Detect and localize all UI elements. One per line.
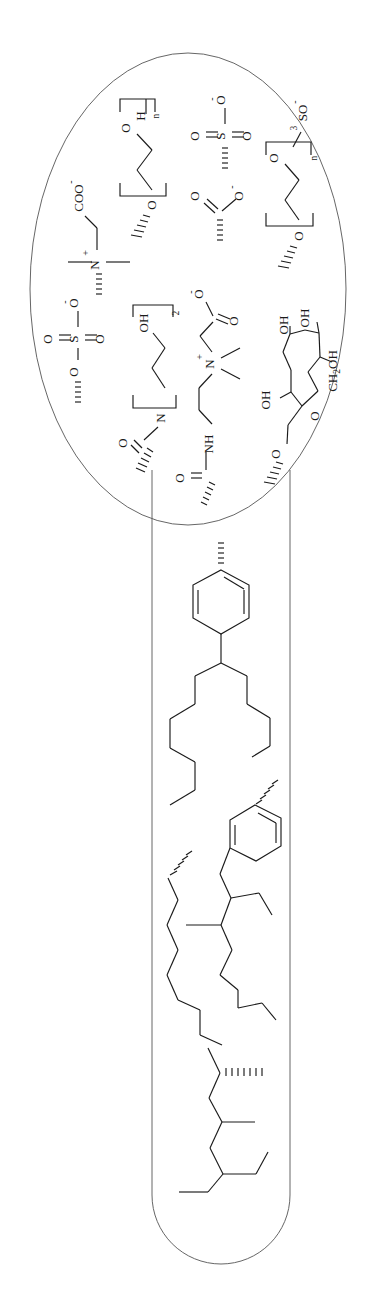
atom-label-OH-glucoside-3: OH — [258, 391, 273, 410]
atom-label-OH-amide: OH — [136, 314, 151, 333]
head-group-ether-sulfate: - SO 3 n O O — [266, 100, 319, 268]
hash-bond-sulfate-ester — [75, 382, 81, 402]
hydrophilic-head-ellipse — [30, 53, 346, 525]
atom-label-O-sulfate-right: O — [92, 334, 107, 343]
hash-bond-betaine — [96, 274, 102, 294]
atom-label-O-peg-bottom: O — [144, 200, 159, 209]
head-group-carboxybetaine: - COO + N — [65, 180, 130, 294]
hash-bond-sulfonate — [222, 148, 228, 168]
subscript-n-peg: n — [151, 113, 161, 118]
subscript-3-ether-sulfate: 3 — [289, 125, 299, 130]
atom-label-OH-glucoside-2: OH — [276, 316, 291, 335]
atom-label-N-betaine: N — [87, 260, 102, 270]
hash-bond-amidopropyl — [201, 482, 215, 505]
subscript-n-ether-sulfate: n — [309, 155, 319, 160]
atom-label-O-sulfonate-top: O — [213, 95, 228, 104]
hash-bond-amide — [136, 448, 153, 472]
charge-plus-amidopropyl: + — [194, 354, 205, 360]
atom-label-N-amidopropyl: N — [202, 359, 217, 369]
charge-minus-ether-sulfate: - — [289, 100, 300, 103]
atom-label-CH2OH-glucoside: CH2OH — [325, 350, 342, 392]
atom-label-SO-ether-sulfate: SO — [295, 105, 310, 122]
atom-label-O-sulfate-left: O — [40, 334, 55, 343]
hash-bond-tail2-chain — [170, 851, 192, 875]
charge-minus-carboxybetaine: - — [65, 180, 76, 183]
charge-minus-carboxylate: - — [226, 185, 237, 188]
atom-label-NH-amidopropyl: NH — [201, 435, 216, 454]
atom-label-O-sulfonate-left: O — [187, 131, 202, 140]
charge-plus-betaine: + — [80, 250, 91, 256]
head-group-amidopropyl-betaine: - O O + N NH O — [172, 289, 241, 505]
head-group-alkyl-polyglucoside: OH OH OH CH2OH O O — [258, 309, 342, 484]
hash-bond-tail1 — [218, 543, 224, 563]
atom-label-OH-glucoside-1: OH — [297, 309, 312, 328]
atom-label-O-carboxylate-left: O — [187, 191, 202, 200]
atom-label-O-amidopropyl-anion: O — [191, 289, 206, 298]
atom-label-O-ether-sulfate-bottom: O — [291, 231, 306, 240]
atom-label-O-ether-sulfate-top: O — [266, 153, 281, 162]
tail-group-benzyl-branched — [167, 780, 281, 1045]
atom-label-O-glucoside-ring: O — [307, 411, 322, 420]
atom-label-O-sulfonate-right: O — [239, 131, 254, 140]
head-group-sulfonate: - O S O O — [187, 95, 254, 168]
hash-bond-carboxylate — [217, 220, 223, 240]
hydrophobic-tail-capsule — [152, 470, 290, 1264]
figure-canvas: H n O O - O S O O — [0, 0, 367, 1308]
atom-label-S-sulfonate: S — [213, 132, 228, 139]
bracket-subscript-2: 2 — [171, 310, 181, 315]
hash-bond-peg — [131, 215, 150, 237]
atom-label-COO-betaine: COO — [71, 184, 86, 211]
atom-label-O-amide-carbonyl: O — [115, 438, 130, 447]
atom-label-O-peg-top: O — [118, 123, 133, 132]
hash-bond-tail3 — [226, 1068, 262, 1076]
head-group-sulfate-ester: - O S O O O — [40, 298, 107, 402]
atom-label-N-amide: N — [153, 413, 168, 423]
atom-label-O-sulfate-bottom: O — [66, 367, 81, 376]
atom-label-S-sulfate-ester: S — [66, 335, 81, 342]
atom-label-H: H — [133, 111, 148, 120]
surfactant-diagram: H n O O - O S O O — [0, 0, 367, 1308]
head-group-peg-hydroxyl: H n O O — [118, 99, 166, 237]
atom-label-O-amidopropyl-amide: O — [172, 473, 187, 482]
atom-label-O-carboxylate-right: O — [231, 191, 246, 200]
head-group-bis-hydroxyethyl-amide: 2 OH N O — [115, 305, 181, 472]
tail-group-alkylbenzene — [170, 543, 270, 805]
head-group-carboxylate: O - O — [187, 185, 246, 240]
atom-label-O-glucoside-anomeric: O — [268, 449, 283, 458]
hash-bond-ether-sulfate — [278, 246, 297, 268]
atom-label-O-sulfate-top: O — [66, 298, 81, 307]
hash-bond-tail2 — [256, 780, 278, 804]
tail-group-multi-branched — [179, 1048, 268, 1192]
